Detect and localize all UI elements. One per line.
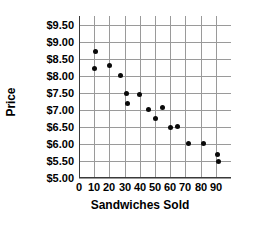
data-point [168, 125, 173, 130]
data-point [92, 66, 97, 71]
gridline-horizontal [79, 25, 231, 26]
gridline-vertical [109, 16, 110, 178]
gridline-vertical [140, 16, 141, 178]
y-axis-tick-label: $9.50 [22, 20, 74, 31]
y-axis-title: Price [2, 62, 20, 142]
data-point [107, 63, 112, 68]
data-point [137, 92, 142, 97]
y-axis-title-text: Price [4, 88, 18, 117]
y-axis-tick-label: $5.50 [22, 156, 74, 167]
x-axis-tick-label: 90 [204, 181, 228, 194]
data-point [118, 73, 123, 78]
data-point [124, 91, 129, 96]
gridline-horizontal [79, 110, 231, 111]
gridline-vertical [125, 16, 126, 178]
scatter-plot-figure: Price $5.00$5.50$6.00$6.50$7.00$7.50$8.0… [0, 0, 265, 226]
data-point [175, 124, 180, 129]
y-axis-tick-label: $8.00 [22, 71, 74, 82]
y-axis-tick-label-group: $5.00$5.50$6.00$6.50$7.00$7.50$8.00$8.50… [22, 16, 76, 178]
data-point [146, 107, 151, 112]
data-point [153, 116, 158, 121]
y-axis-tick-label: $8.50 [22, 54, 74, 65]
gridline-vertical [155, 16, 156, 178]
gridline-vertical [185, 16, 186, 178]
y-axis-tick-label: $7.00 [22, 105, 74, 116]
gridline-horizontal [79, 178, 231, 179]
data-point [186, 141, 191, 146]
gridline-horizontal [79, 161, 231, 162]
data-point [215, 152, 220, 157]
gridline-vertical [94, 16, 95, 178]
data-point [201, 141, 206, 146]
x-axis-tick-label-group: 0102030405060708090 [79, 181, 231, 197]
data-point [160, 105, 165, 110]
gridline-vertical [201, 16, 202, 178]
data-point [93, 49, 98, 54]
y-axis-tick-label: $9.00 [22, 37, 74, 48]
y-axis-tick-label: $7.50 [22, 88, 74, 99]
gridline-horizontal [79, 93, 231, 94]
gridline-horizontal [79, 59, 231, 60]
gridline-horizontal [79, 127, 231, 128]
gridline-horizontal [79, 144, 231, 145]
plot-area [79, 16, 231, 178]
gridline-vertical [170, 16, 171, 178]
y-axis-tick-label: $6.50 [22, 122, 74, 133]
y-axis-line [79, 16, 80, 178]
gridline-horizontal [79, 76, 231, 77]
data-point [125, 101, 130, 106]
gridline-horizontal [79, 42, 231, 43]
x-axis-line [79, 177, 231, 178]
data-point [216, 159, 221, 164]
x-axis-title: Sandwiches Sold [40, 198, 240, 212]
y-axis-tick-label: $6.00 [22, 139, 74, 150]
